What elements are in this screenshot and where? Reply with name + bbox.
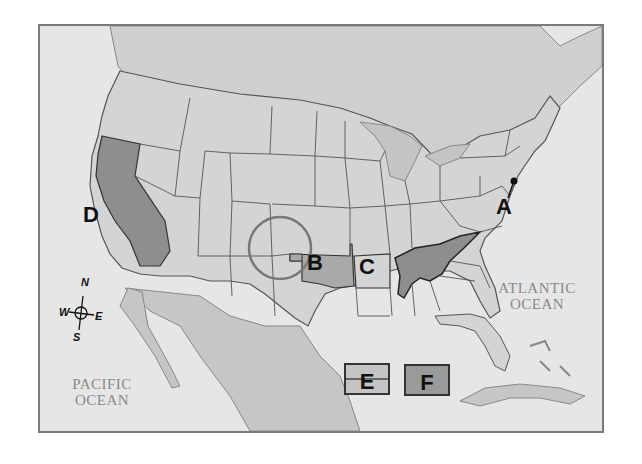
bahamas-islands xyxy=(530,341,570,376)
map-frame: D B C A N W E S PACIFIC OCEAN ATLANTIC O… xyxy=(38,24,604,433)
us-map xyxy=(40,26,602,431)
label-a: A xyxy=(496,196,512,218)
compass-e: E xyxy=(95,310,102,322)
compass-rose xyxy=(69,296,94,330)
label-c: C xyxy=(359,256,375,278)
cuba-island xyxy=(460,384,585,406)
label-b: B xyxy=(307,252,323,274)
legend-e: E xyxy=(344,363,390,395)
atlantic-ocean-label: ATLANTIC OCEAN xyxy=(492,280,582,312)
oklahoma-panhandle xyxy=(290,254,302,261)
legend-f: F xyxy=(404,364,450,396)
label-d: D xyxy=(83,204,99,226)
florida xyxy=(435,314,510,371)
pacific-ocean-label: PACIFIC OCEAN xyxy=(62,376,142,408)
compass-w: W xyxy=(59,306,69,318)
compass-n: N xyxy=(81,276,89,288)
compass-s: S xyxy=(73,331,80,343)
